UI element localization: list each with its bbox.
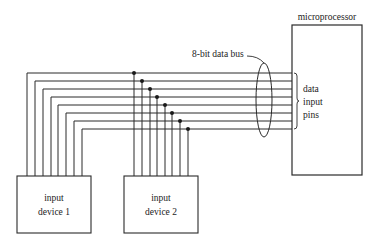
pins-label-line2: input — [303, 97, 323, 107]
device-2-wires — [134, 73, 188, 176]
pins-label-line1: data — [303, 84, 320, 94]
pins-brace — [294, 73, 299, 129]
microprocessor-label: microprocessor — [298, 12, 357, 22]
device-1-label-line1: input — [44, 193, 64, 203]
device-1-label-line2: device 1 — [38, 207, 70, 217]
bus-leader-line — [247, 56, 264, 63]
input-device-1-box — [17, 176, 91, 233]
device-2-label-line1: input — [151, 193, 171, 203]
bus-diagram: microprocessor input device 1 input devi… — [0, 0, 377, 245]
pins-label-line3: pins — [303, 110, 319, 120]
device-1-wires — [27, 73, 292, 176]
device-2-label-line2: device 2 — [145, 207, 177, 217]
bus-label: 8-bit data bus — [192, 49, 244, 59]
junction-dots — [132, 71, 190, 131]
bus-ellipse — [256, 63, 272, 137]
input-device-2-box — [124, 176, 198, 233]
